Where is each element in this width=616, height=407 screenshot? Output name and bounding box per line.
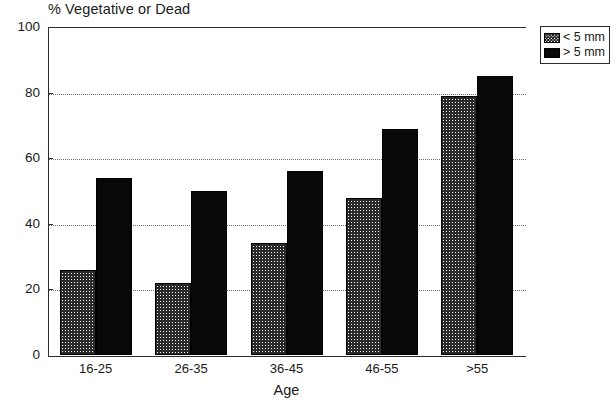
x-tick-label-4655: 46-55 <box>334 361 429 376</box>
y-tick-mark-60 <box>48 158 53 159</box>
bar-3645-lt5mm <box>251 243 287 355</box>
bar-3645-gt5mm <box>287 171 323 355</box>
bar-chart: % Vegetative or Dead 020406080100 16-252… <box>0 0 616 407</box>
bar-4655-gt5mm <box>382 129 418 355</box>
legend-label: > 5 mm <box>563 46 605 59</box>
x-tick-label-2635: 26-35 <box>143 361 238 376</box>
crosshatch-swatch-icon <box>544 33 560 43</box>
solid-black-swatch-icon <box>544 48 560 58</box>
x-tick-label-3645: 36-45 <box>239 361 334 376</box>
bar-55-lt5mm <box>441 96 477 355</box>
bar-55-gt5mm <box>477 76 513 355</box>
x-tick-label-55: >55 <box>430 361 525 376</box>
y-tick-mark-20 <box>48 289 53 290</box>
bar-2635-lt5mm <box>155 283 191 355</box>
y-tick-label-0: 0 <box>6 348 40 362</box>
x-tick-label-1625: 16-25 <box>48 361 143 376</box>
y-tick-mark-40 <box>48 224 53 225</box>
chart-title: % Vegetative or Dead <box>48 1 190 17</box>
bar-2635-gt5mm <box>191 191 227 355</box>
y-tick-label-60: 60 <box>6 151 40 165</box>
y-tick-label-40: 40 <box>6 217 40 231</box>
legend: < 5 mm> 5 mm <box>540 26 610 64</box>
x-axis: 16-2526-3536-4546-55>55 <box>48 361 525 379</box>
bar-4655-lt5mm <box>346 198 382 355</box>
x-axis-title: Age <box>48 382 525 398</box>
legend-label: < 5 mm <box>563 31 605 44</box>
y-axis: 020406080100 <box>0 27 40 355</box>
y-tick-label-20: 20 <box>6 282 40 296</box>
y-tick-label-80: 80 <box>6 86 40 100</box>
legend-item-lt5mm: < 5 mm <box>544 30 605 45</box>
bars-layer <box>48 27 525 355</box>
legend-item-gt5mm: > 5 mm <box>544 45 605 60</box>
y-tick-mark-80 <box>48 93 53 94</box>
y-tick-label-100: 100 <box>6 20 40 34</box>
bar-1625-gt5mm <box>96 178 132 355</box>
bar-1625-lt5mm <box>60 270 96 355</box>
